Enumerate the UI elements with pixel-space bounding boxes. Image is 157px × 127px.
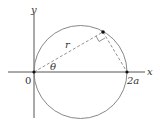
origin-label: 0 xyxy=(25,75,31,86)
point-2a xyxy=(125,70,128,73)
right-angle-marker xyxy=(96,36,105,42)
radius-r-line xyxy=(34,32,103,72)
two-a-label: 2a xyxy=(126,75,139,86)
theta-label: θ xyxy=(50,61,56,72)
chord-line xyxy=(103,32,127,72)
x-axis-label: x xyxy=(147,66,153,77)
y-axis-label: y xyxy=(30,4,37,15)
polar-circle-diagram: y x 0 θ r 2a xyxy=(0,0,157,127)
point-origin xyxy=(32,70,35,73)
point-p xyxy=(101,30,105,34)
r-label: r xyxy=(65,39,71,50)
